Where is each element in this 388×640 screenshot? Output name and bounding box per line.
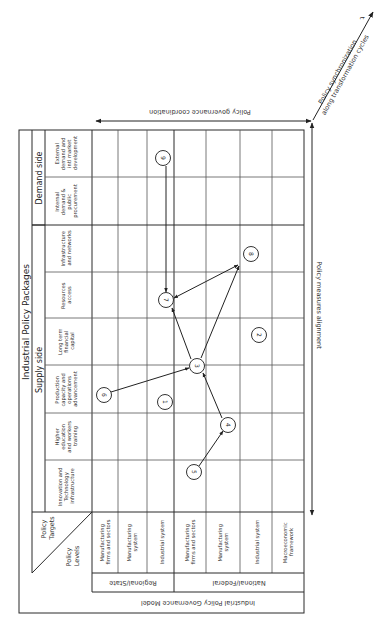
node-7: 7 [159, 293, 174, 308]
node-2: 2 [252, 328, 267, 343]
edge-6-to-3 [111, 368, 189, 392]
nodes: 1 2 3 4 5 6 7 8 9 [97, 151, 267, 480]
node-edges [111, 166, 239, 466]
row-header-regional-manufacturing-system: Manufacturing system [126, 522, 139, 561]
column-header-long-term-capital: Long term financial capital [57, 327, 76, 355]
governance-model-label: Industrial Policy Governance Model [141, 599, 255, 607]
svg-text:6: 6 [101, 393, 108, 397]
column-headers: Innovation and Technology infrastructure… [54, 136, 79, 506]
row-headers: Manufacturing firms and sectors Manufact… [99, 519, 294, 564]
corner-policy-levels: Policy Levels [65, 545, 81, 566]
node-3: 3 [190, 359, 205, 374]
header-title: Industrial Policy Packages [21, 264, 31, 380]
synchronization-axis-label: Policy synchronization along transformat… [313, 29, 371, 117]
svg-text:9: 9 [160, 156, 167, 160]
column-header-internal-demand: Internal demand & public procurement [54, 184, 79, 217]
column-header-external-demand: External demand and intl market developm… [54, 136, 79, 170]
svg-text:8: 8 [248, 252, 255, 256]
column-header-infrastructure: Infrastructure and networks [60, 229, 72, 266]
alignment-axis-label: Policy measures alignment [315, 261, 323, 349]
node-9: 9 [156, 151, 171, 166]
node-5: 5 [187, 465, 202, 480]
node-8: 8 [244, 247, 259, 262]
demand-side-label: Demand side [35, 151, 44, 204]
column-header-production-capacity: Production capacity and operations advan… [54, 371, 78, 407]
svg-text:5: 5 [191, 470, 198, 474]
time-axis-label: t [358, 17, 366, 20]
corner-policy-targets: Policy Targets [40, 516, 56, 541]
node-6: 6 [97, 388, 112, 403]
row-header-regional-firms: Manufacturing firms and sectors [99, 519, 111, 564]
edge-3-to-7 [172, 308, 191, 359]
edge-5-to-4 [199, 431, 223, 466]
svg-text:1: 1 [162, 400, 169, 404]
svg-text:Industrial Policy Packages: Industrial Policy Packages [21, 264, 31, 380]
svg-text:4: 4 [225, 423, 232, 427]
policy-governance-diagram: Industrial Policy Packages Supply side D… [0, 0, 388, 640]
svg-text:7: 7 [163, 298, 170, 302]
row-header-national-industrial-system: Industrial system [254, 520, 261, 565]
row-header-regional-industrial-system: Industrial system [159, 520, 166, 565]
axes: Policy governance coordination Policy me… [96, 12, 373, 515]
row-header-national-firms: Manufacturing firms and sectors [184, 519, 196, 564]
column-header-higher-education: Higher education and workers training [54, 419, 79, 452]
row-header-national-manufacturing-system: Manufacturing system [217, 522, 230, 561]
row-group-regional-state: Regional/State [109, 579, 156, 587]
coordination-axis-label: Policy governance coordination [149, 108, 251, 116]
column-header-innovation: Innovation and Technology infrastructure [57, 466, 75, 507]
edge-3-to-8 [201, 266, 239, 358]
supply-side-label: Supply side [35, 347, 44, 393]
node-4: 4 [221, 418, 236, 433]
svg-text:2: 2 [256, 333, 263, 337]
row-header-macroeconomic-framework: Macroeconomic framework [282, 521, 294, 563]
node-1: 1 [158, 395, 173, 410]
svg-text:3: 3 [194, 364, 201, 368]
column-header-resources-access: Resources access [60, 281, 72, 309]
row-group-national-federal: National/Federal [212, 579, 265, 587]
